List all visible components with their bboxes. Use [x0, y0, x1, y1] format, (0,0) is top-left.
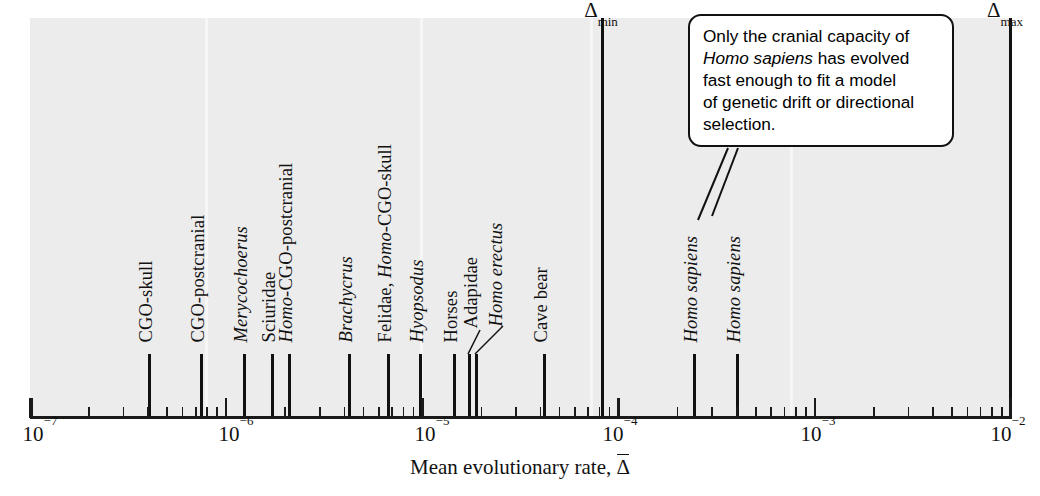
x-axis-minor-tick	[951, 407, 953, 418]
delta-bar-symbol: Δ	[616, 455, 630, 480]
x-axis-minor-tick	[481, 407, 483, 418]
x-axis-minor-tick	[736, 407, 738, 418]
stem-label-felidae-homo-cgo-skull: Felidae, Homo-CGO-skull	[376, 143, 395, 342]
x-axis-minor-tick	[166, 407, 168, 418]
stem-label-text: Merycochoerus	[231, 226, 251, 342]
stem-label-horses: Horses	[442, 290, 461, 342]
x-axis-minor-tick	[540, 407, 542, 418]
x-axis-minor-tick	[344, 407, 346, 418]
x-axis-minor-tick	[284, 407, 286, 418]
tick-mantissa: 10	[219, 422, 240, 446]
x-axis-minor-tick	[770, 407, 772, 418]
x-axis-minor-tick	[378, 407, 380, 418]
x-axis-minor-tick	[515, 407, 517, 418]
tick-exponent: −5	[436, 413, 450, 428]
x-axis-tick-layer	[0, 396, 1040, 418]
x-axis-minor-tick	[967, 407, 969, 418]
x-axis-minor-tick	[587, 407, 589, 418]
tick-mantissa: 10	[415, 422, 436, 446]
tick-mantissa: 10	[801, 422, 822, 446]
stem-label-text: Hyopsodus	[407, 259, 427, 342]
x-axis-minor-tick	[574, 407, 576, 418]
tick-mantissa: 10	[23, 422, 44, 446]
x-axis-title-text: Mean evolutionary rate,	[410, 455, 611, 479]
x-axis-minor-tick	[908, 407, 910, 418]
stem-label-homo-sapiens-1: Homo sapiens	[682, 235, 701, 342]
x-axis-minor-tick	[559, 407, 561, 418]
x-axis-minor-tick	[195, 407, 197, 418]
x-axis-major-tick	[814, 398, 817, 418]
x-tick-label-1e-3: 10−3	[801, 421, 836, 447]
x-axis-minor-tick	[609, 407, 611, 418]
stem-label-cgo-postcranial: CGO-postcranial	[189, 214, 208, 342]
stem-label-genus: Homo	[276, 296, 296, 342]
x-axis-minor-tick	[677, 407, 679, 418]
stem-label-cave-bear: Cave bear	[532, 267, 551, 342]
x-axis-minor-tick	[795, 407, 797, 418]
callout-box: Only the cranial capacity of Homo sapien…	[688, 14, 954, 147]
x-axis-minor-tick	[147, 407, 149, 418]
x-axis-minor-tick	[711, 407, 713, 418]
x-axis-minor-tick	[403, 407, 405, 418]
tick-mantissa: 10	[603, 422, 624, 446]
callout-pointer	[690, 148, 750, 226]
x-axis-minor-tick	[1001, 407, 1003, 418]
x-axis-minor-tick	[123, 407, 125, 418]
x-axis-major-tick	[225, 398, 228, 418]
stem-label-text: Homo sapiens	[724, 235, 744, 342]
stem-label-homo-cgo-postcranial: Homo-CGO-postcranial	[277, 162, 296, 342]
x-tick-label-1e-6: 10−6	[219, 421, 254, 447]
x-tick-label-1e-7: 10−7	[23, 421, 58, 447]
stem-label-text: Felidae,	[375, 277, 395, 342]
x-axis-minor-tick	[88, 407, 90, 418]
leader-line-homo-erectus	[473, 324, 513, 354]
stem-label-homo-sapiens-2: Homo sapiens	[725, 235, 744, 342]
x-axis-minor-tick	[182, 407, 184, 418]
x-axis-minor-tick	[216, 407, 218, 418]
x-axis-minor-tick	[980, 407, 982, 418]
tick-exponent: −7	[44, 413, 58, 428]
stem-label-homo-erectus: Homo erectus	[487, 222, 506, 326]
callout-species: Homo sapiens	[703, 48, 813, 68]
stem-label-adapidae: Adapidae	[462, 256, 481, 328]
x-axis-minor-tick	[319, 407, 321, 418]
callout-line-1: Only the cranial capacity of	[703, 25, 939, 47]
x-axis-minor-tick	[873, 407, 875, 418]
x-axis-minor-tick	[805, 407, 807, 418]
callout-line-5: selection.	[703, 113, 939, 135]
evolutionary-rate-figure: Δmin Δmax CGO-skull CGO-postcranial Mery…	[0, 0, 1040, 496]
callout-line-2: Homo sapiens has evolved	[703, 47, 939, 69]
stem-label-genus: Homo	[375, 232, 395, 278]
stem-label-text: -CGO-skull	[375, 143, 395, 231]
stem-label-text: Homo sapiens	[681, 235, 701, 342]
tick-mantissa: 10	[991, 422, 1012, 446]
x-axis-minor-tick	[599, 407, 601, 418]
tick-exponent: −3	[822, 413, 836, 428]
x-axis-title: Mean evolutionary rate, Δ	[0, 455, 1040, 480]
stem-label-brachycrus: Brachycrus	[337, 256, 356, 342]
callout-line-4: of genetic drift or directional	[703, 91, 939, 113]
x-axis-minor-tick	[206, 407, 208, 418]
callout-line-2-rest: has evolved	[813, 48, 910, 68]
x-axis-minor-tick	[363, 407, 365, 418]
stem-label-merycochoerus: Merycochoerus	[232, 226, 251, 342]
x-axis-minor-tick	[413, 407, 415, 418]
x-axis-minor-tick	[391, 407, 393, 418]
callout-line-3: fast enough to fit a model	[703, 69, 939, 91]
x-tick-label-1e-5: 10−5	[415, 421, 450, 447]
tick-exponent: −2	[1012, 413, 1026, 428]
tick-exponent: −4	[624, 413, 638, 428]
tick-exponent: −6	[240, 413, 254, 428]
x-axis-minor-tick	[991, 407, 993, 418]
x-axis-major-tick	[617, 398, 620, 418]
stem-label-text: Brachycrus	[336, 256, 356, 342]
stem-label-hyopsodus: Hyopsodus	[408, 259, 427, 342]
x-axis-minor-tick	[784, 407, 786, 418]
x-axis-minor-tick	[932, 407, 934, 418]
x-tick-label-1e-4: 10−4	[603, 421, 638, 447]
stem-label-text: -CGO-postcranial	[276, 162, 296, 296]
stem-label-cgo-skull: CGO-skull	[137, 260, 156, 342]
x-tick-label-1e-2: 10−2	[991, 421, 1026, 447]
stem-label-text: Homo erectus	[486, 222, 506, 326]
x-axis-major-tick	[29, 398, 32, 418]
